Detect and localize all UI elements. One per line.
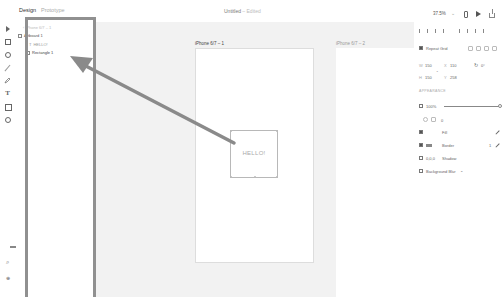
document-name: Untitled	[224, 8, 241, 14]
width-label: W	[419, 63, 423, 68]
tab-prototype[interactable]: Prototype	[41, 7, 65, 13]
x-label: X	[444, 63, 447, 68]
boolean-intersect-icon[interactable]	[484, 46, 489, 51]
distribute-vertical-icon[interactable]	[483, 29, 487, 33]
select-tool-icon[interactable]	[4, 26, 11, 33]
rotation-icon: ↻	[474, 62, 478, 68]
line-tool-icon[interactable]	[4, 64, 11, 71]
corner-radius-input[interactable]: 0	[441, 118, 443, 123]
chevron-down-icon[interactable]: ⌄	[460, 168, 463, 173]
border-checkbox[interactable]	[419, 143, 423, 147]
fill-checkbox[interactable]	[419, 130, 423, 134]
shadow-label: Shadow	[442, 156, 456, 161]
resize-handle[interactable]	[230, 176, 232, 178]
zoom-tool-icon[interactable]	[4, 116, 11, 123]
height-label: H	[419, 75, 422, 80]
hello-text[interactable]: HELLO!	[231, 150, 277, 156]
resize-handle[interactable]	[276, 176, 278, 178]
align-top-icon[interactable]	[459, 29, 463, 33]
align-center-icon[interactable]	[427, 29, 431, 33]
y-label: Y	[444, 75, 447, 80]
pen-tool-icon[interactable]	[4, 77, 11, 84]
document-title: Untitled – Edited	[224, 8, 261, 14]
artboard-label[interactable]: iPhone 6/7 – 2	[336, 41, 365, 46]
opacity-input[interactable]: 100%	[426, 104, 436, 109]
appearance-header: APPEARANCE	[419, 89, 446, 93]
fill-eyedropper-icon[interactable]	[495, 130, 499, 134]
boolean-add-icon[interactable]	[468, 46, 473, 51]
selected-rectangle[interactable]: HELLO!	[230, 130, 278, 178]
shadow-checkbox[interactable]	[419, 156, 423, 160]
opacity-slider-handle[interactable]	[498, 104, 502, 108]
resize-handle[interactable]	[230, 130, 232, 132]
settings-icon[interactable]: ⊕	[4, 275, 11, 282]
annotation-highlight-box	[25, 17, 96, 297]
artboard-tool-icon[interactable]	[4, 103, 11, 110]
resize-handle[interactable]	[254, 176, 256, 178]
artboard-label[interactable]: iPhone 6/7 – 1	[195, 41, 224, 46]
repeat-grid-icon[interactable]	[419, 46, 423, 50]
text-tool-icon[interactable]: T	[4, 90, 11, 97]
corner-radius-individual-icon[interactable]	[431, 117, 436, 122]
play-icon[interactable]	[476, 11, 481, 17]
boolean-exclude-icon[interactable]	[492, 46, 497, 51]
plugins-icon[interactable]: ⌕	[4, 259, 11, 266]
opacity-slider[interactable]	[444, 106, 500, 107]
align-middle-icon[interactable]	[467, 29, 471, 33]
ellipse-tool-icon[interactable]	[5, 52, 11, 58]
border-label: Border	[442, 143, 454, 148]
fill-label: Fill	[442, 130, 447, 135]
repeat-grid-button[interactable]: Repeat Grid	[426, 46, 448, 51]
border-eyedropper-icon[interactable]	[495, 143, 499, 147]
x-input[interactable]: 110	[450, 63, 456, 68]
opacity-icon	[419, 104, 423, 108]
border-width-input[interactable]: 1	[489, 143, 491, 148]
share-icon[interactable]	[489, 13, 495, 18]
properties-panel: Repeat Grid W 150 X 110 ↻ 0° ∘ H 150 Y 2…	[414, 22, 504, 297]
y-input[interactable]: 258	[450, 75, 457, 80]
artboard-icon	[18, 34, 22, 38]
background-blur-checkbox[interactable]	[419, 169, 423, 173]
chevron-down-icon[interactable]: ⌄	[451, 11, 455, 16]
align-left-icon[interactable]	[419, 29, 423, 33]
shadow-values[interactable]: 0,0,0	[426, 156, 435, 161]
height-input[interactable]: 150	[425, 75, 432, 80]
corner-radius-all-icon[interactable]	[423, 117, 428, 122]
artboard-iphone-2[interactable]	[336, 48, 414, 297]
device-preview-icon[interactable]	[464, 11, 468, 18]
align-bottom-icon[interactable]	[475, 29, 479, 33]
rectangle-tool-icon[interactable]	[5, 39, 11, 45]
border-color-swatch[interactable]	[426, 144, 432, 148]
width-input[interactable]: 150	[425, 63, 432, 68]
document-status: – Edited	[242, 8, 260, 14]
boolean-subtract-icon[interactable]	[476, 46, 481, 51]
background-blur-label: Background Blur	[426, 169, 456, 174]
tool-bar: T ⌕ ⊕	[0, 22, 16, 297]
zoom-level[interactable]: 37.5%	[433, 11, 446, 16]
rotation-input[interactable]: 0°	[481, 63, 485, 68]
lock-aspect-icon[interactable]: ∘	[436, 69, 439, 74]
distribute-icon[interactable]	[443, 29, 447, 33]
tab-design[interactable]: Design	[19, 7, 36, 13]
align-right-icon[interactable]	[435, 29, 439, 33]
resize-handle[interactable]	[276, 130, 278, 132]
